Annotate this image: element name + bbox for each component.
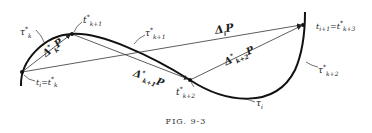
- label-tau-k: τ*k: [20, 26, 32, 39]
- label-tau-k1: τ*k+1: [145, 27, 165, 40]
- point-ti: [20, 70, 24, 74]
- label-t-k2: t*k+2: [176, 86, 195, 99]
- label-tau-k2: τ*k+2: [318, 64, 338, 77]
- vector-delta-k1: [72, 34, 188, 79]
- point-tk2: [188, 78, 192, 82]
- label-t-i: ti=t*k: [36, 76, 58, 88]
- point-ti1: [301, 23, 305, 27]
- label-t-i1: ti+1=t*k+3: [316, 20, 355, 32]
- label-t-k1: t*k+1: [83, 14, 102, 27]
- figure-caption: FIG. 9-3: [0, 117, 372, 126]
- label-tau-i: τi: [256, 99, 263, 110]
- point-tk1: [70, 32, 74, 36]
